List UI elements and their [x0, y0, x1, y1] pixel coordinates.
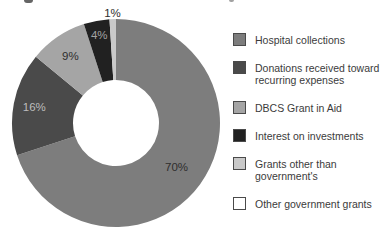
legend-item-hospital-collections: Hospital collections	[233, 33, 383, 46]
legend-swatch-hospital-collections	[233, 33, 246, 46]
legend-swatch-dbcs-grant-in-aid	[233, 101, 246, 114]
donut-chart: 70%16%9%4%1%	[0, 0, 232, 232]
donut-pct-label-70: 70%	[165, 161, 188, 173]
legend-label: Hospital collections	[255, 33, 345, 46]
legend-label: DBCS Grant in Aid	[255, 101, 342, 114]
legend-item-grants-other-than-government-s: Grants other than government's	[233, 157, 383, 182]
donut-pct-label-1: 1%	[104, 7, 121, 19]
legend-swatch-donations-received-toward-recurring-expenses	[233, 61, 246, 74]
donut-pct-label-16: 16%	[23, 101, 46, 113]
legend-label: Interest on investments	[255, 129, 364, 142]
chart-legend: Hospital collectionsDonations received t…	[233, 33, 383, 210]
legend-item-other-government-grants: Other government grants	[233, 197, 383, 210]
legend-item-dbcs-grant-in-aid: DBCS Grant in Aid	[233, 101, 383, 114]
legend-label: Donations received toward recurring expe…	[255, 61, 379, 86]
donut-pct-label-4: 4%	[91, 29, 108, 41]
legend-swatch-grants-other-than-government-s	[233, 157, 246, 170]
donut-pct-label-9: 9%	[62, 50, 79, 62]
figure-canvas: 70%16%9%4%1% Hospital collectionsDonatio…	[0, 0, 389, 232]
legend-swatch-interest-on-investments	[233, 129, 246, 142]
legend-label: Grants other than government's	[255, 157, 337, 182]
legend-swatch-other-government-grants	[233, 197, 246, 210]
legend-item-donations-received-toward-recurring-expenses: Donations received toward recurring expe…	[233, 61, 383, 86]
legend-item-interest-on-investments: Interest on investments	[233, 129, 383, 142]
legend-label: Other government grants	[255, 197, 372, 210]
